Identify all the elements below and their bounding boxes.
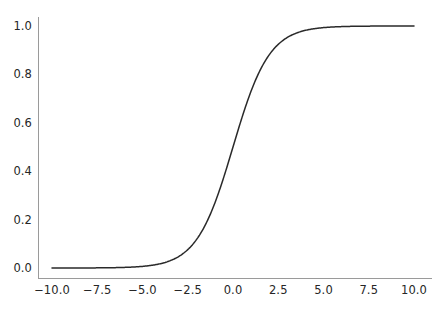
y-tick-label: 0.0 — [5, 261, 32, 275]
y-tick-label: 1.0 — [5, 19, 32, 33]
x-tick-label: −7.5 — [83, 283, 111, 297]
chart-figure: −10.0−7.5−5.0−2.50.02.55.07.510.0 0.00.2… — [0, 0, 443, 309]
x-tick-label: 0.0 — [224, 283, 243, 297]
y-tick-label: 0.4 — [5, 164, 32, 178]
data-series-layer — [52, 26, 414, 268]
x-tick-label: −2.5 — [174, 283, 202, 297]
y-tick-label: 0.2 — [5, 213, 32, 227]
x-tick-label: 2.5 — [269, 283, 288, 297]
x-tick-label: 10.0 — [401, 283, 427, 297]
x-tick-label: −10.0 — [34, 283, 70, 297]
sigmoid-plot — [0, 0, 443, 309]
axis-spines — [38, 17, 432, 278]
x-tick-label: 5.0 — [314, 283, 333, 297]
x-tick-label: −5.0 — [128, 283, 156, 297]
sigmoid-curve — [52, 26, 414, 268]
y-tick-label: 0.6 — [5, 116, 32, 130]
x-tick-label: 7.5 — [359, 283, 378, 297]
y-tick-label: 0.8 — [5, 67, 32, 81]
